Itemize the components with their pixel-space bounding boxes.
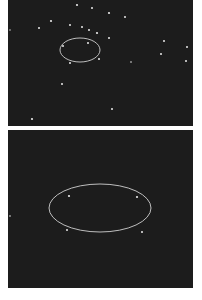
aperture-ellipse: [60, 38, 100, 62]
star-point: [87, 42, 89, 44]
star-point: [88, 29, 90, 31]
star-point: [108, 37, 110, 39]
star-point: [186, 46, 188, 48]
star-point: [50, 20, 52, 22]
star-point: [163, 40, 165, 42]
star-point: [31, 118, 33, 120]
aperture-ellipse: [49, 184, 151, 232]
star-point: [9, 29, 10, 30]
star-point: [141, 231, 143, 233]
star-point: [98, 58, 100, 60]
star-point: [130, 61, 132, 63]
star-point: [69, 62, 71, 64]
star-point: [160, 53, 162, 55]
star-point: [62, 45, 64, 47]
star-point: [76, 4, 78, 6]
star-point: [136, 196, 138, 198]
star-point: [124, 16, 126, 18]
star-point: [185, 60, 187, 62]
star-point: [68, 195, 70, 197]
star-point: [38, 27, 40, 29]
star-point: [69, 24, 71, 26]
star-field-top: [8, 0, 193, 126]
star-field-bottom: [8, 130, 193, 288]
image-panel-bottom: [8, 130, 193, 288]
star-point: [61, 83, 63, 85]
star-point: [66, 229, 68, 231]
star-point: [91, 7, 93, 9]
star-point: [9, 215, 11, 217]
image-panel-top: [8, 0, 193, 126]
star-point: [111, 108, 113, 110]
star-point: [81, 26, 83, 28]
star-point: [108, 12, 110, 14]
star-point: [96, 32, 98, 34]
